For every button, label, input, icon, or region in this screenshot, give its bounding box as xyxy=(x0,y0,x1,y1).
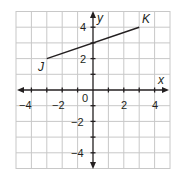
coordinate-plane: x y J K 0 −4 −2 2 4 4 2 −2 −4 xyxy=(0,0,182,180)
point-k-label: K xyxy=(142,12,151,26)
x-tick-label-m4: −4 xyxy=(19,99,32,111)
y-axis-label: y xyxy=(96,11,104,25)
y-tick-label-2: 2 xyxy=(80,53,86,65)
x-tick-label-4: 4 xyxy=(152,99,158,111)
y-tick-label-4: 4 xyxy=(80,21,86,33)
y-tick-label-m2: −2 xyxy=(71,116,84,128)
origin-label: 0 xyxy=(82,92,88,104)
point-j-label: J xyxy=(37,60,45,74)
y-tick-label-m4: −4 xyxy=(71,147,84,159)
x-tick-label-m2: −2 xyxy=(52,99,65,111)
x-axis-label: x xyxy=(157,73,165,87)
x-tick-label-2: 2 xyxy=(121,99,127,111)
